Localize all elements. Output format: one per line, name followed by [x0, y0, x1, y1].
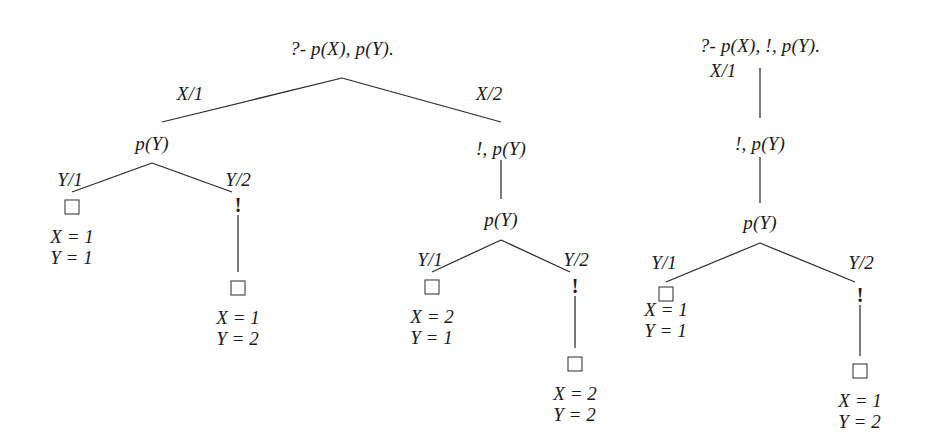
tree1-node-right-cut-pY: !, p(Y) — [476, 139, 526, 158]
tree1-success-box-2 — [231, 281, 246, 296]
tree1-solution-2: X = 1 Y = 2 — [216, 307, 259, 349]
tree1-edge-label-left-y2: Y/2 — [225, 170, 250, 189]
tree1-solution-4: X = 2 Y = 2 — [553, 383, 596, 425]
tree1-success-box-3 — [425, 280, 440, 295]
tree1-solution-4-x: X = 2 — [553, 383, 596, 404]
tree2-node-cut-pY: !, p(Y) — [735, 134, 785, 153]
tree1-solution-2-y: Y = 2 — [216, 328, 259, 349]
tree2-root-goal: ?- p(X), !, p(Y). — [700, 36, 821, 55]
tree1-solution-3: X = 2 Y = 1 — [410, 306, 453, 348]
tree1-solution-1-x: X = 1 — [50, 226, 93, 247]
tree2-solution-1-x: X = 1 — [644, 299, 687, 320]
tree2-edge-label-y2: Y/2 — [848, 253, 873, 272]
tree1-node-right-right-cut: ! — [572, 276, 579, 296]
edge-t1-left-to-cut — [152, 163, 232, 192]
tree1-node-left-right-cut: ! — [235, 195, 242, 215]
proof-tree-figure: ?- p(X), p(Y). X/1 X/2 p(Y) !, p(Y) Y/1 … — [0, 0, 928, 444]
tree1-solution-2-x: X = 1 — [216, 307, 259, 328]
tree1-success-box-1 — [65, 200, 80, 215]
edge-t1-left-to-box — [72, 163, 152, 192]
edge-t1-rpY-to-cut — [501, 240, 570, 272]
tree1-success-box-4 — [568, 357, 583, 372]
tree1-solution-3-x: X = 2 — [410, 306, 453, 327]
tree2-solution-1: X = 1 Y = 1 — [644, 299, 687, 341]
tree2-solution-2-y: Y = 2 — [838, 411, 881, 432]
tree2-edge-label-y1: Y/1 — [651, 253, 676, 272]
edge-t2-pY-to-cut — [760, 243, 855, 282]
tree2-solution-1-y: Y = 1 — [644, 320, 687, 341]
tree1-solution-3-y: Y = 1 — [410, 327, 453, 348]
tree1-edge-label-left-y1: Y/1 — [57, 170, 82, 189]
tree2-success-box-2 — [853, 364, 868, 379]
tree2-node-pY: p(Y) — [743, 213, 777, 232]
tree1-edge-label-x1: X/1 — [177, 84, 203, 103]
tree1-solution-1-y: Y = 1 — [50, 247, 93, 268]
edge-t2-pY-to-box — [666, 243, 760, 282]
tree2-solution-2-x: X = 1 — [838, 390, 881, 411]
tree-edges-layer — [0, 0, 928, 444]
tree2-solution-2: X = 1 Y = 2 — [838, 390, 881, 432]
tree1-node-left-pY: p(Y) — [135, 134, 169, 153]
tree1-root-goal: ?- p(X), p(Y). — [290, 39, 394, 58]
tree1-node-right-pY: p(Y) — [484, 210, 518, 229]
tree1-solution-1: X = 1 Y = 1 — [50, 226, 93, 268]
tree2-node-right-cut: ! — [857, 285, 864, 305]
tree1-edge-label-x2: X/2 — [476, 84, 502, 103]
tree1-edge-label-right-y2: Y/2 — [563, 250, 588, 269]
tree2-edge-label-x1: X/1 — [710, 61, 736, 80]
tree1-solution-4-y: Y = 2 — [553, 404, 596, 425]
tree1-edge-label-right-y1: Y/1 — [417, 250, 442, 269]
